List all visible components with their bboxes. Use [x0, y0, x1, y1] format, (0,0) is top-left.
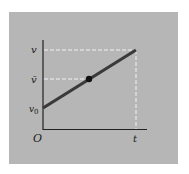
label-v0: v0	[29, 104, 39, 116]
label-origin: O	[33, 132, 42, 145]
label-v: v	[31, 44, 37, 55]
average-velocity-dot	[86, 76, 92, 82]
velocity-time-graph: v v̄ v0 O t	[0, 0, 189, 174]
label-t: t	[133, 133, 138, 144]
label-vbar: v̄	[31, 74, 37, 85]
label-v0-sub: 0	[34, 108, 38, 116]
